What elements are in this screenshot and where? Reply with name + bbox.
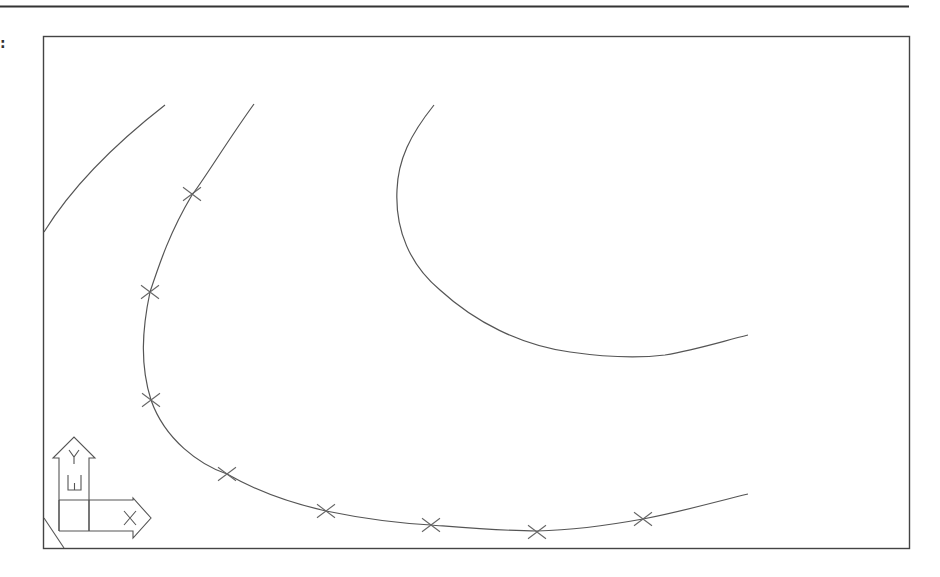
curve-fitted <box>143 104 748 531</box>
ucs-x-glyph <box>124 511 136 525</box>
polyline-curves <box>44 104 748 531</box>
ucs-x-arrow <box>59 498 151 538</box>
viewport-frame <box>44 37 910 549</box>
fit-point-markers <box>141 187 652 539</box>
x-marker-icon <box>528 525 546 539</box>
curve-fragment-bottom-left <box>44 518 64 548</box>
curve-upper-right <box>397 105 748 357</box>
x-marker-icon <box>634 512 652 526</box>
x-marker-icon <box>142 393 160 407</box>
x-marker-icon <box>141 285 159 299</box>
ucs-w-glyph <box>68 475 81 490</box>
ucs-icon <box>53 437 151 538</box>
x-marker-icon <box>183 187 201 201</box>
ucs-y-glyph <box>69 450 79 464</box>
x-marker-icon <box>218 467 236 481</box>
x-marker-icon <box>317 504 335 518</box>
drawing-canvas: Y W X <box>0 0 940 577</box>
curve-left-edge <box>44 105 165 232</box>
